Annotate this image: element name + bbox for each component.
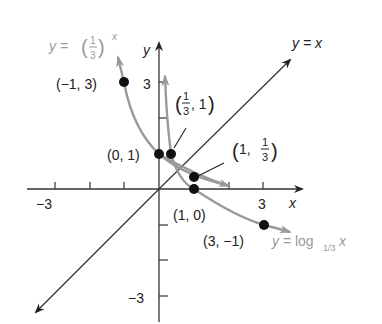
pointer-one-third xyxy=(198,163,224,176)
point-neg1-3 xyxy=(119,77,129,87)
svg-text:(: ( xyxy=(81,36,88,58)
svg-text:(: ( xyxy=(232,140,239,162)
function-graph: x y −3 3 3 −3 y = x y = ( 1 3 ) x y = lo… xyxy=(0,0,382,324)
label-1-third: ( 1, 1 3 ) xyxy=(232,136,278,163)
identity-label: y = x xyxy=(291,35,323,51)
label-third-1: ( 1 3 , 1 ) xyxy=(175,90,215,117)
y-axis xyxy=(159,43,168,322)
x-tick-neg3: −3 xyxy=(36,196,52,212)
point-1-0 xyxy=(189,184,199,194)
x-axis-label: x xyxy=(288,195,297,211)
identity-line xyxy=(159,60,290,189)
label-neg1-3: (−1, 3) xyxy=(56,76,97,92)
svg-text:x: x xyxy=(111,31,118,42)
x-tick-3: 3 xyxy=(258,196,266,212)
y-axis-label: y xyxy=(142,42,151,58)
svg-text:y =: y = xyxy=(48,38,68,54)
logarithmic-label: y = log 1/3 x xyxy=(271,233,347,253)
svg-text:): ) xyxy=(208,93,215,115)
svg-text:x: x xyxy=(338,233,347,249)
point-3-neg1 xyxy=(259,220,269,230)
svg-text:(: ( xyxy=(175,93,182,115)
svg-text:3: 3 xyxy=(90,50,96,61)
point-0-1 xyxy=(154,149,164,159)
exponential-label: y = ( 1 3 ) x xyxy=(48,31,118,61)
svg-text:3: 3 xyxy=(183,105,189,117)
svg-text:3: 3 xyxy=(262,151,268,163)
exponential-curve xyxy=(118,57,229,186)
y-tick-neg3: −3 xyxy=(128,290,144,306)
svg-text:1,: 1, xyxy=(239,141,251,157)
svg-text:1: 1 xyxy=(262,136,268,148)
svg-text:y = log: y = log xyxy=(271,233,314,249)
point-third-1 xyxy=(166,149,176,159)
svg-text:1: 1 xyxy=(183,90,189,102)
svg-text:, 1: , 1 xyxy=(191,96,207,112)
svg-text:): ) xyxy=(271,140,278,162)
pointer-third-one xyxy=(174,128,186,148)
svg-text:): ) xyxy=(98,36,105,58)
label-0-1: (0, 1) xyxy=(107,147,140,163)
y-tick-3: 3 xyxy=(143,76,151,92)
label-1-0: (1, 0) xyxy=(173,207,206,223)
svg-text:1/3: 1/3 xyxy=(323,243,336,253)
point-1-third xyxy=(189,172,199,182)
svg-text:1: 1 xyxy=(90,35,96,46)
logarithmic-curve xyxy=(165,76,171,154)
label-3-neg1: (3, −1) xyxy=(203,233,244,249)
